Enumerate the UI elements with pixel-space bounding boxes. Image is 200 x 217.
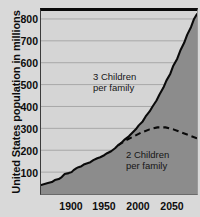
chart-figure: United States population in millions 800… <box>0 0 200 217</box>
y-tick-500: 500 <box>4 80 38 90</box>
y-tick-400: 400 <box>4 102 38 112</box>
chart-canvas <box>41 11 197 194</box>
plot-area: 3 Children per family 2 Children per fam… <box>40 8 198 195</box>
y-tick-100: 100 <box>4 168 38 178</box>
x-tick-1900: 1900 <box>54 200 88 212</box>
three-children-line2: per family <box>93 82 136 93</box>
two-children-annotation: 2 Children per family <box>126 149 169 171</box>
x-tick-2000: 2000 <box>121 200 155 212</box>
three-children-line1: 3 Children <box>93 71 136 82</box>
y-tick-800: 800 <box>4 14 38 24</box>
two-children-line2: per family <box>126 160 169 171</box>
two-children-line1: 2 Children <box>126 149 169 160</box>
x-tick-2050: 2050 <box>155 200 189 212</box>
y-axis-tick-labels: 800 700 600 500 400 300 200 100 <box>2 0 38 217</box>
x-tick-1950: 1950 <box>87 200 121 212</box>
y-tick-600: 600 <box>4 58 38 68</box>
three-children-annotation: 3 Children per family <box>93 71 136 93</box>
y-tick-300: 300 <box>4 124 38 134</box>
y-tick-700: 700 <box>4 36 38 46</box>
y-tick-200: 200 <box>4 146 38 156</box>
